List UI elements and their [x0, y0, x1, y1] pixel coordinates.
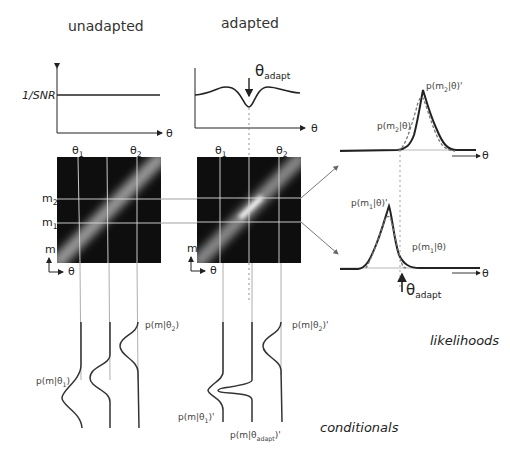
- axis-label-theta: θ: [68, 266, 75, 277]
- axis-label-theta-adapted: θ: [210, 265, 217, 276]
- label-p-m-theta-adapt: p(m|θadapt)': [230, 431, 281, 442]
- likelihood-top: [340, 90, 480, 290]
- snr-ylabel: 1/SNR: [22, 90, 56, 101]
- likelihood-top-xlabel: θ: [482, 150, 489, 161]
- conditionals-adapted: [208, 322, 282, 422]
- label-p-m-theta1-adapted: p(m|θ1)': [178, 413, 215, 424]
- likelihood-bottom: [340, 206, 480, 292]
- axis-label-m: m: [45, 244, 56, 255]
- axis-label-m-adapted: m: [187, 243, 198, 254]
- snr-xlabel-unadapted: θ: [166, 128, 173, 139]
- col-label-theta1-adapted: θ1: [215, 145, 227, 159]
- label-p-m2: p(m2|θ): [377, 122, 411, 133]
- col-label-theta1: θ1: [72, 145, 84, 159]
- row-label-m2: m2: [42, 193, 58, 207]
- label-p-m-theta2-adapted: p(m|θ2)': [292, 321, 329, 332]
- label-p-m-theta2: p(m|θ2): [145, 321, 179, 332]
- likelihood-adapt-marker: θadapt: [406, 283, 441, 300]
- conditionals-unadapted: [62, 322, 139, 428]
- snr-plot-unadapted: [57, 68, 162, 133]
- likelihood-bottom-xlabel: θ: [482, 268, 489, 279]
- title-unadapted: unadapted: [68, 19, 144, 33]
- row-label-m1: m1: [42, 217, 58, 231]
- adapt-marker-label: θadapt: [255, 64, 290, 81]
- conditionals-section-label: conditionals: [320, 421, 398, 434]
- label-p-m1: p(m1|θ): [412, 243, 446, 254]
- likelihoods-section-label: likelihoods: [430, 334, 499, 347]
- label-p-m-theta1: p(m|θ1): [36, 377, 70, 388]
- label-p-m1-adapted: p(m1|θ)': [351, 199, 388, 210]
- snr-xlabel-adapted: θ: [311, 123, 318, 134]
- title-adapted: adapted: [221, 16, 279, 30]
- col-label-theta2: θ2: [130, 145, 142, 159]
- label-p-m2-adapted: p(m2|θ)': [426, 82, 463, 93]
- col-label-theta2-adapted: θ2: [276, 145, 288, 159]
